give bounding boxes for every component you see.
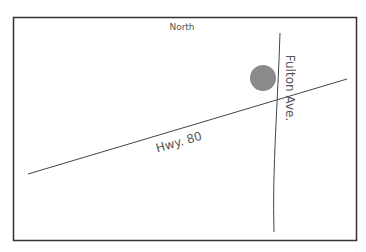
location-marker [250, 65, 276, 91]
map-frame [14, 18, 357, 241]
north-label: North [169, 22, 194, 32]
fulton-ave-label: Fulton Ave. [283, 55, 297, 121]
map-canvas: North Hwy. 80 Fulton Ave. [0, 0, 366, 252]
